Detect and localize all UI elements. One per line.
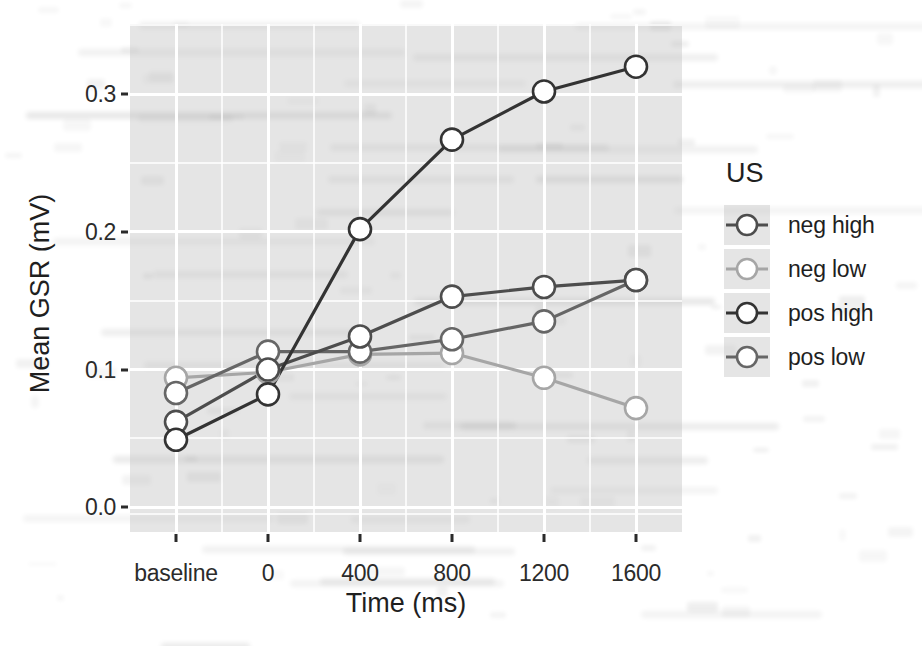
legend-item-pos-high[interactable]: pos high xyxy=(724,291,914,335)
x-tick-mark xyxy=(359,534,362,542)
data-point xyxy=(165,429,187,451)
series-line xyxy=(176,280,636,422)
data-point xyxy=(349,218,371,240)
y-tick-label: 0.3 xyxy=(56,81,116,108)
legend-items: neg highneg lowpos highpos low xyxy=(724,203,914,379)
y-tick-mark xyxy=(121,93,128,96)
legend-item-pos-low[interactable]: pos low xyxy=(724,335,914,379)
data-point xyxy=(533,367,555,389)
x-tick-label: 800 xyxy=(433,560,470,587)
x-tick-label: 1600 xyxy=(611,560,661,587)
x-tick-label: 400 xyxy=(341,560,378,587)
y-tick-label: 0.0 xyxy=(56,494,116,521)
legend-label: neg high xyxy=(788,212,875,239)
x-axis-title: Time (ms) xyxy=(130,588,682,619)
data-point xyxy=(533,310,555,332)
legend-key-icon xyxy=(724,249,770,289)
x-tick-mark xyxy=(451,534,454,542)
x-tick-mark xyxy=(175,534,178,542)
y-tick-mark xyxy=(121,368,128,371)
x-tick-label: 1200 xyxy=(519,560,569,587)
data-point xyxy=(533,80,555,102)
data-point xyxy=(625,56,647,78)
data-point xyxy=(533,276,555,298)
legend-key-icon xyxy=(724,293,770,333)
data-point xyxy=(441,129,463,151)
y-tick-mark xyxy=(121,506,128,509)
legend-label: pos low xyxy=(788,344,865,371)
data-point xyxy=(625,397,647,419)
x-tick-label: 0 xyxy=(262,560,275,587)
plot-panel xyxy=(130,24,682,532)
data-point xyxy=(257,383,279,405)
legend-title: US xyxy=(726,158,914,189)
data-point xyxy=(441,328,463,350)
data-point xyxy=(441,286,463,308)
series-line xyxy=(176,280,636,393)
points-pos-high xyxy=(165,56,647,451)
data-point xyxy=(165,382,187,404)
data-point xyxy=(257,359,279,381)
data-point xyxy=(625,269,647,291)
legend-key-icon xyxy=(724,205,770,245)
y-tick-mark xyxy=(121,230,128,233)
data-point xyxy=(349,326,371,348)
legend-item-neg-high[interactable]: neg high xyxy=(724,203,914,247)
y-tick-label: 0.1 xyxy=(56,356,116,383)
x-tick-mark xyxy=(543,534,546,542)
legend: US neg highneg lowpos highpos low xyxy=(724,158,914,379)
series-neg-high xyxy=(176,280,636,422)
series-layer xyxy=(130,24,682,532)
x-tick-mark xyxy=(635,534,638,542)
points-pos-low xyxy=(165,269,647,404)
legend-item-neg-low[interactable]: neg low xyxy=(724,247,914,291)
legend-key-icon xyxy=(724,337,770,377)
x-tick-mark xyxy=(267,534,270,542)
legend-label: pos high xyxy=(788,300,873,327)
series-pos-low xyxy=(176,280,636,393)
legend-label: neg low xyxy=(788,256,866,283)
y-tick-label: 0.2 xyxy=(56,218,116,245)
y-axis-title: Mean GSR (mV) xyxy=(25,144,56,444)
gsr-line-chart-figure: Mean GSR (mV) Time (ms) US neg highneg l… xyxy=(0,0,922,646)
x-tick-label: baseline xyxy=(134,560,217,587)
